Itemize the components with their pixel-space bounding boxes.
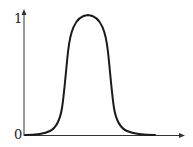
bump-curve — [25, 15, 155, 135]
y-tick-label-1: 1 — [14, 11, 22, 26]
y-tick-label-0: 0 — [14, 127, 22, 142]
x-axis-arrow-icon — [179, 133, 185, 138]
y-axis — [22, 9, 27, 136]
x-axis — [24, 133, 185, 138]
bump-function-diagram: 1 0 — [0, 0, 193, 147]
